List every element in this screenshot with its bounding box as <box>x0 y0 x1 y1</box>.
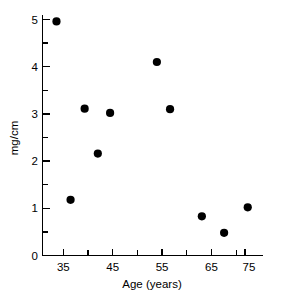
data-point <box>106 109 114 117</box>
y-tick-label-1: 1 <box>32 202 38 214</box>
data-point <box>52 17 60 25</box>
data-point <box>94 149 102 157</box>
data-point <box>220 229 228 237</box>
x-axis-title: Age (years) <box>122 278 182 290</box>
data-point <box>198 212 206 220</box>
y-tick-label-3: 3 <box>32 108 38 120</box>
y-tick-label-5: 5 <box>32 14 38 26</box>
x-tick-label-35: 35 <box>57 261 70 273</box>
data-point <box>81 105 89 113</box>
x-tick-label-55: 55 <box>156 261 169 273</box>
x-tick-label-45: 45 <box>106 261 119 273</box>
x-tick-label-65: 65 <box>205 261 218 273</box>
y-tick-label-0: 0 <box>32 250 38 262</box>
y-tick-label-4: 4 <box>32 61 39 73</box>
data-point <box>244 203 252 211</box>
y-tick-label-2: 2 <box>32 155 38 167</box>
data-point <box>153 58 161 66</box>
data-point <box>66 196 74 204</box>
data-point <box>166 105 174 113</box>
scatter-plot-figure: 0 1 2 3 4 5 35 45 55 65 75 Age (years) m… <box>0 0 282 294</box>
x-tick-label-75: 75 <box>243 261 256 273</box>
y-axis-title: mg/cm <box>8 121 20 156</box>
